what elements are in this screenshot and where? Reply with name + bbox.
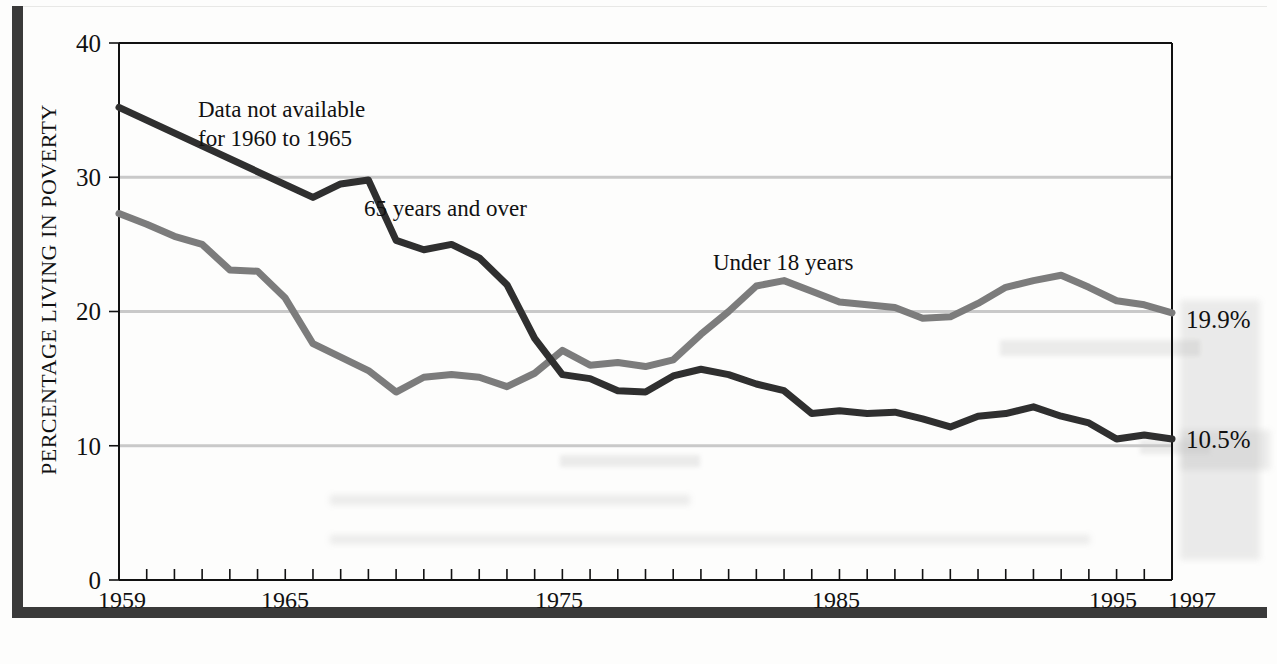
x-axis-ticks <box>119 569 1172 580</box>
y-tick-label-10: 10 <box>76 433 101 460</box>
y-axis-title: PERCENTAGE LIVING IN POVERTY <box>36 104 61 475</box>
x-tick-label-1975: 1975 <box>535 587 583 613</box>
series-label-under-18-years: Under 18 years <box>713 250 854 275</box>
x-tick-label-1997: 1997 <box>1168 587 1216 613</box>
x-tick-label-1959: 1959 <box>98 587 146 613</box>
annotation-data-not-available-line1: Data not available <box>198 97 365 122</box>
gridlines <box>119 177 1172 446</box>
x-tick-label-1965: 1965 <box>261 587 309 613</box>
series-line-65-years-and-over <box>119 107 1172 439</box>
end-value-labels: 19.9% 10.5% <box>1186 306 1251 453</box>
y-tick-label-40: 40 <box>76 30 101 57</box>
x-tick-label-1995: 1995 <box>1089 587 1137 613</box>
y-tick-label-20: 20 <box>76 298 101 325</box>
x-axis-tick-labels: 1959 1965 1975 1985 1995 1997 <box>98 587 1216 613</box>
series-line-under-18-years <box>119 214 1172 393</box>
chart-page: 40 30 20 10 0 PERCENTAGE LIVING IN POVER… <box>0 0 1277 664</box>
annotation-data-not-available-line2: for 1960 to 1965 <box>198 126 352 151</box>
series-label-65-years-and-over: 65 years and over <box>364 196 527 221</box>
y-tick-label-30: 30 <box>76 164 101 191</box>
end-label-65-years-and-over: 10.5% <box>1186 426 1251 453</box>
poverty-line-chart: 40 30 20 10 0 PERCENTAGE LIVING IN POVER… <box>0 0 1277 664</box>
x-tick-label-1985: 1985 <box>812 587 860 613</box>
y-axis-ticks <box>109 43 119 580</box>
y-axis-tick-labels: 40 30 20 10 0 <box>76 30 101 594</box>
end-label-under-18-years: 19.9% <box>1186 306 1251 333</box>
series-group <box>119 107 1172 439</box>
chart-container: 40 30 20 10 0 PERCENTAGE LIVING IN POVER… <box>0 0 1277 664</box>
